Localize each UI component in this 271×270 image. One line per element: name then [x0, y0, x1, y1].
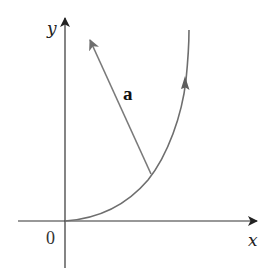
- x-axis-label: x: [248, 230, 258, 250]
- y-axis-label: y: [46, 18, 57, 38]
- curve: [65, 30, 189, 221]
- diagram: y x 0 a: [0, 0, 271, 270]
- vector-a-label: a: [123, 83, 133, 104]
- origin-label: 0: [46, 228, 55, 248]
- vector-a: [90, 40, 151, 174]
